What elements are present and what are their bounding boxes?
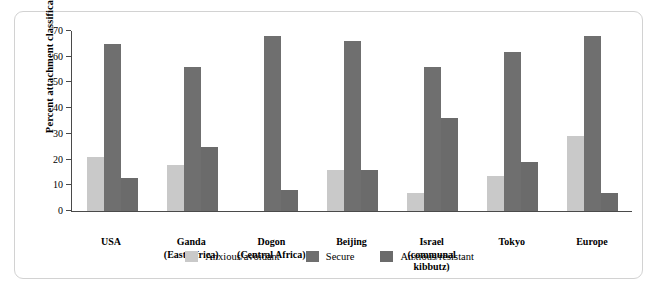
x-axis-label-main: Israel [419, 236, 443, 247]
y-axis-tick: 50 [66, 81, 71, 82]
y-axis-tick-label: 40 [53, 102, 63, 113]
y-axis-tick: 20 [66, 159, 71, 160]
bar-group [407, 31, 458, 211]
bar [584, 36, 601, 211]
bar [201, 147, 218, 211]
legend-swatch [380, 251, 393, 262]
bar [504, 52, 521, 211]
bar-group [87, 31, 138, 211]
bar [441, 118, 458, 211]
x-axis-label: Tokyo [472, 236, 552, 249]
bar [487, 176, 504, 211]
x-axis-label-main: Beijing [336, 236, 367, 247]
y-axis-tick-label: 20 [53, 153, 63, 164]
bar-group [487, 31, 538, 211]
y-axis-tick-label: 70 [53, 25, 63, 36]
bar [327, 170, 344, 211]
bar-group [567, 31, 618, 211]
bar [344, 41, 361, 211]
bar [184, 67, 201, 211]
bar [424, 67, 441, 211]
x-axis-label-main: Tokyo [499, 236, 525, 247]
legend-item[interactable]: Anxious/resistant [380, 251, 474, 262]
x-axis-label: Europe [552, 236, 632, 249]
plot-area: 010203040506070 USAGanda(East Africa)Dog… [71, 31, 632, 212]
bar [104, 44, 121, 211]
bar [167, 165, 184, 211]
legend-item[interactable]: Secure [306, 251, 355, 262]
legend-label: Secure [326, 251, 355, 262]
x-axis-label-main: Ganda [177, 236, 206, 247]
chart-legend: Anxious/avoidantSecureAnxious/resistant [15, 251, 644, 262]
y-axis-tick-label: 30 [53, 127, 63, 138]
legend-label: Anxious/avoidant [205, 251, 280, 262]
legend-label: Anxious/resistant [400, 251, 474, 262]
bar [521, 162, 538, 211]
y-axis-tick: 40 [66, 107, 71, 108]
y-axis-line [71, 31, 72, 212]
y-axis-tick-label: 10 [53, 179, 63, 190]
bar [361, 170, 378, 211]
figure-frame: Percent attachment classification 010203… [14, 11, 643, 279]
x-axis-label-main: Europe [576, 236, 608, 247]
x-axis-label-main: USA [101, 236, 121, 247]
y-axis-tick: 0 [66, 210, 71, 211]
x-axis-line [71, 211, 632, 212]
bar [264, 36, 281, 211]
x-axis-label-main: Dogon [257, 236, 285, 247]
bar [601, 193, 618, 211]
bar-group [167, 31, 218, 211]
y-axis-tick-label: 0 [58, 205, 63, 216]
bar [281, 190, 298, 211]
bar-group [247, 31, 298, 211]
y-axis-tick-label: 60 [53, 50, 63, 61]
bar-group [327, 31, 378, 211]
legend-swatch [306, 251, 319, 262]
y-axis-tick: 60 [66, 56, 71, 57]
bar [567, 136, 584, 211]
bar [87, 157, 104, 211]
bar [407, 193, 424, 211]
y-axis-tick: 30 [66, 133, 71, 134]
y-axis-tick: 70 [66, 30, 71, 31]
x-axis-label: USA [71, 236, 151, 249]
legend-swatch [185, 251, 198, 262]
legend-item[interactable]: Anxious/avoidant [185, 251, 280, 262]
y-axis-tick-label: 50 [53, 76, 63, 87]
bar [121, 178, 138, 211]
x-axis-label: Beijing [311, 236, 391, 249]
y-axis-tick: 10 [66, 184, 71, 185]
